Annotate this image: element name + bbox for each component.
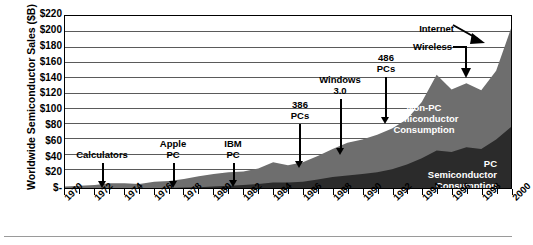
y-tick-label: $- [53, 183, 62, 193]
annotation-ibm-pc-label: IBM PC [210, 139, 256, 160]
y-tick-label: $80 [45, 120, 62, 130]
y-tick-label: $20 [45, 167, 62, 177]
annotation-486-pcs-label: 486 PCs [364, 53, 408, 74]
x-tick-label: 2000 [510, 180, 533, 203]
annotation-windows-30-arrow [336, 99, 345, 155]
y-tick-label: $180 [40, 41, 62, 51]
y-axis-tick-labels: $220 $200 $180 $160 $140 $120 $100 $80 $… [20, 14, 62, 190]
annotation-windows-30-label: Windows 3.0 [310, 75, 370, 96]
annotation-ibm-pc-arrow [229, 163, 238, 187]
y-tick-label: $140 [40, 73, 62, 83]
y-tick-label: $60 [45, 136, 62, 146]
y-tick-label: $40 [45, 152, 62, 162]
region-label-non-pc: Non-PC Semiconductor Consumption [351, 102, 497, 135]
annotation-internet-label: Internet [388, 24, 454, 35]
annotation-apple-pc-label: Apple PC [148, 139, 198, 160]
annotation-wireless-arrow [452, 41, 480, 81]
y-tick-label: $120 [40, 88, 62, 98]
y-tick-label: $220 [40, 9, 62, 19]
y-tick-label: $160 [40, 57, 62, 67]
annotation-calculators-label: Calculators [62, 150, 142, 161]
y-tick-label: $200 [40, 25, 62, 35]
annotation-386-pcs-label: 386 PCs [278, 100, 322, 121]
footer-divider [4, 236, 512, 237]
annotation-386-pcs-arrow [295, 124, 304, 168]
y-tick-label: $100 [40, 104, 62, 114]
annotation-wireless-label: Wireless [392, 42, 452, 53]
annotation-internet-arrow [452, 22, 490, 46]
x-axis-tick-labels: 1970197219741976197819801982198419861988… [64, 195, 512, 231]
annotation-486-pcs-arrow [381, 77, 390, 124]
